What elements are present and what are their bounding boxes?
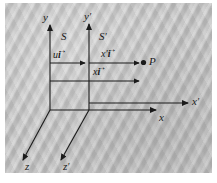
vector-arrow-overset: → [107, 44, 117, 49]
vector-arrow-overset: → [96, 62, 106, 67]
frame-label-S: S [61, 31, 67, 42]
axis-label-y: y [43, 12, 48, 23]
prime-mark-y: ′ [89, 11, 91, 22]
frame-label-S-prime: S′ [99, 31, 107, 42]
axis-label-z-prime: z′ [63, 161, 69, 172]
vector-arrow-overset: → [57, 45, 67, 50]
axis-label-z: z [25, 161, 29, 172]
diagram-vector-graphics [0, 0, 217, 183]
axis-label-x-prime: x′ [192, 96, 199, 107]
axis-label-x: x [159, 112, 164, 123]
unit-vector-ihat: →i [108, 49, 111, 59]
prime-mark-z: ′ [67, 161, 69, 172]
prime-mark-S: ′ [105, 31, 107, 42]
unit-vector-ihat: →i [58, 50, 61, 60]
axis-z [23, 110, 50, 160]
vector-label-xprime-ihat: x′→i [101, 49, 110, 59]
point-P-marker [141, 60, 146, 65]
point-label-P: P [149, 56, 156, 67]
axis-z-prime [61, 110, 89, 160]
prime-mark-x: ′ [197, 96, 199, 107]
figure-canvas: y y′ S S′ u→i x′→i x→i P x′ x z z′ [0, 0, 217, 183]
vector-label-x-ihat: x→i [93, 67, 100, 77]
unit-vector-ihat: →i [97, 67, 100, 77]
vector-label-u-ihat: u→i [53, 50, 61, 60]
axis-label-y-prime: y′ [84, 11, 91, 22]
